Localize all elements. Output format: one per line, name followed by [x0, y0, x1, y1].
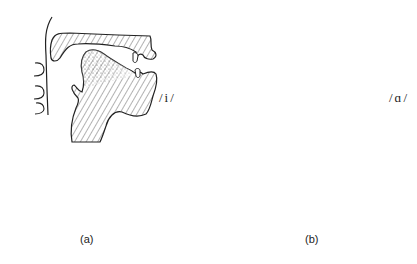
vocal-tract-a [34, 17, 157, 142]
caption-b: (b) [305, 233, 318, 245]
vertebrae-a [34, 63, 44, 114]
vowel-label-b: /ɑ/ [389, 90, 409, 106]
lower-tooth-a [135, 69, 140, 78]
caption-a: (a) [80, 233, 93, 245]
vowel-label-a: /i/ [159, 90, 176, 106]
pharynx-wall-a [46, 17, 52, 115]
vocal-tract-figure [0, 0, 417, 264]
upper-tooth-a [133, 53, 138, 63]
